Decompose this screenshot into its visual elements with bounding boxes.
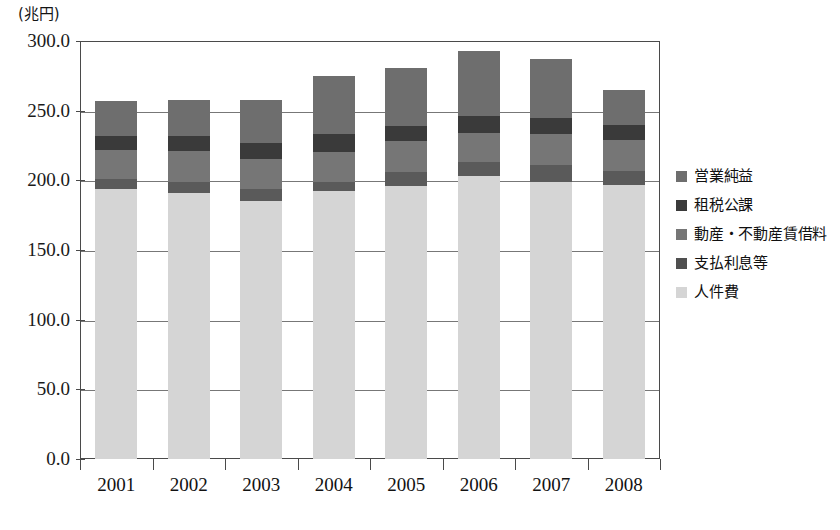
bars-layer [80, 41, 660, 459]
bar-segment[interactable] [603, 125, 645, 140]
legend-item[interactable]: 動産・不動産賃借料 [676, 221, 840, 247]
x-axis-tick [298, 459, 299, 470]
bar-segment[interactable] [168, 193, 210, 459]
x-axis-tick [515, 459, 516, 470]
bar-segment[interactable] [95, 179, 137, 189]
legend-swatch-icon [676, 287, 687, 298]
x-axis-tick-label: 2008 [589, 474, 659, 496]
x-axis-tick [660, 459, 661, 470]
bar-segment[interactable] [530, 59, 572, 118]
x-axis-tick [370, 459, 371, 470]
x-axis-tick-marks [80, 459, 660, 471]
bar-group[interactable] [168, 100, 210, 459]
bar-segment[interactable] [240, 189, 282, 202]
legend-swatch-icon [676, 200, 687, 211]
bar-segment[interactable] [95, 150, 137, 179]
bar-segment[interactable] [313, 191, 355, 459]
x-axis-tick [443, 459, 444, 470]
x-axis-tick-label: 2005 [371, 474, 441, 496]
bar-group[interactable] [240, 100, 282, 459]
y-axis-tick-label: 100.0 [27, 309, 70, 331]
x-axis-tick [80, 459, 81, 470]
y-axis-tick-label: 300.0 [27, 30, 70, 52]
bar-segment[interactable] [385, 172, 427, 186]
legend-swatch-icon [676, 258, 687, 269]
y-axis-tick-label: 250.0 [27, 100, 70, 122]
bar-segment[interactable] [240, 201, 282, 459]
bar-group[interactable] [95, 101, 137, 459]
bar-segment[interactable] [168, 136, 210, 151]
bar-segment[interactable] [95, 101, 137, 136]
legend-item[interactable]: 営業純益 [676, 163, 840, 189]
bar-segment[interactable] [603, 171, 645, 185]
legend-label: 租税公課 [694, 197, 753, 213]
bar-segment[interactable] [530, 165, 572, 182]
bar-segment[interactable] [385, 186, 427, 459]
bar-group[interactable] [385, 68, 427, 459]
x-axis-tick-label: 2003 [226, 474, 296, 496]
legend-label: 営業純益 [694, 168, 753, 184]
y-axis-labels: 0.050.0100.0150.0200.0250.0300.0 [0, 41, 74, 459]
legend-swatch-icon [676, 171, 687, 182]
x-axis-tick-label: 2001 [81, 474, 151, 496]
legend-item[interactable]: 租税公課 [676, 192, 840, 218]
bar-group[interactable] [603, 90, 645, 459]
bar-segment[interactable] [385, 68, 427, 127]
x-axis-tick [153, 459, 154, 470]
y-axis-tick-label: 150.0 [27, 239, 70, 261]
legend-label: 動産・不動産賃借料 [694, 226, 827, 242]
bar-group[interactable] [313, 76, 355, 459]
bar-group[interactable] [530, 59, 572, 459]
bar-segment[interactable] [603, 90, 645, 125]
bar-segment[interactable] [168, 182, 210, 193]
x-axis-labels: 20012002200320042005200620072008 [80, 474, 660, 504]
bar-group[interactable] [458, 51, 500, 459]
y-axis-tick-label: 0.0 [46, 448, 70, 470]
x-axis-tick [588, 459, 589, 470]
bar-segment[interactable] [385, 141, 427, 172]
legend-label: 支払利息等 [694, 255, 768, 271]
x-axis-tick [225, 459, 226, 470]
x-axis-tick-label: 2007 [516, 474, 586, 496]
bar-segment[interactable] [458, 116, 500, 133]
chart-legend: 営業純益租税公課動産・不動産賃借料支払利息等人件費 [676, 163, 840, 308]
bar-segment[interactable] [95, 189, 137, 459]
bar-segment[interactable] [95, 136, 137, 150]
y-axis-unit-label: (兆円) [18, 2, 60, 23]
bar-segment[interactable] [603, 185, 645, 459]
bar-segment[interactable] [168, 100, 210, 136]
bar-segment[interactable] [168, 151, 210, 182]
bar-segment[interactable] [458, 133, 500, 162]
legend-swatch-icon [676, 229, 687, 240]
bar-segment[interactable] [458, 176, 500, 459]
x-axis-tick-label: 2004 [299, 474, 369, 496]
bar-segment[interactable] [313, 182, 355, 192]
legend-item[interactable]: 人件費 [676, 279, 840, 305]
bar-segment[interactable] [313, 76, 355, 135]
legend-item[interactable]: 支払利息等 [676, 250, 840, 276]
bar-segment[interactable] [530, 118, 572, 135]
bar-segment[interactable] [313, 152, 355, 181]
bar-segment[interactable] [530, 182, 572, 459]
bar-segment[interactable] [603, 140, 645, 171]
legend-label: 人件費 [694, 284, 738, 300]
bar-segment[interactable] [458, 162, 500, 176]
x-axis-tick-label: 2002 [154, 474, 224, 496]
bar-segment[interactable] [313, 134, 355, 152]
y-axis-tick-label: 200.0 [27, 169, 70, 191]
bar-segment[interactable] [240, 143, 282, 160]
y-axis-tick-label: 50.0 [37, 378, 70, 400]
bar-segment[interactable] [530, 134, 572, 165]
bar-segment[interactable] [240, 159, 282, 188]
chart-container: (兆円) 0.050.0100.0150.0200.0250.0300.0 20… [0, 0, 840, 530]
x-axis-tick-label: 2006 [444, 474, 514, 496]
bar-segment[interactable] [240, 100, 282, 143]
bar-segment[interactable] [458, 51, 500, 116]
bar-segment[interactable] [385, 126, 427, 141]
